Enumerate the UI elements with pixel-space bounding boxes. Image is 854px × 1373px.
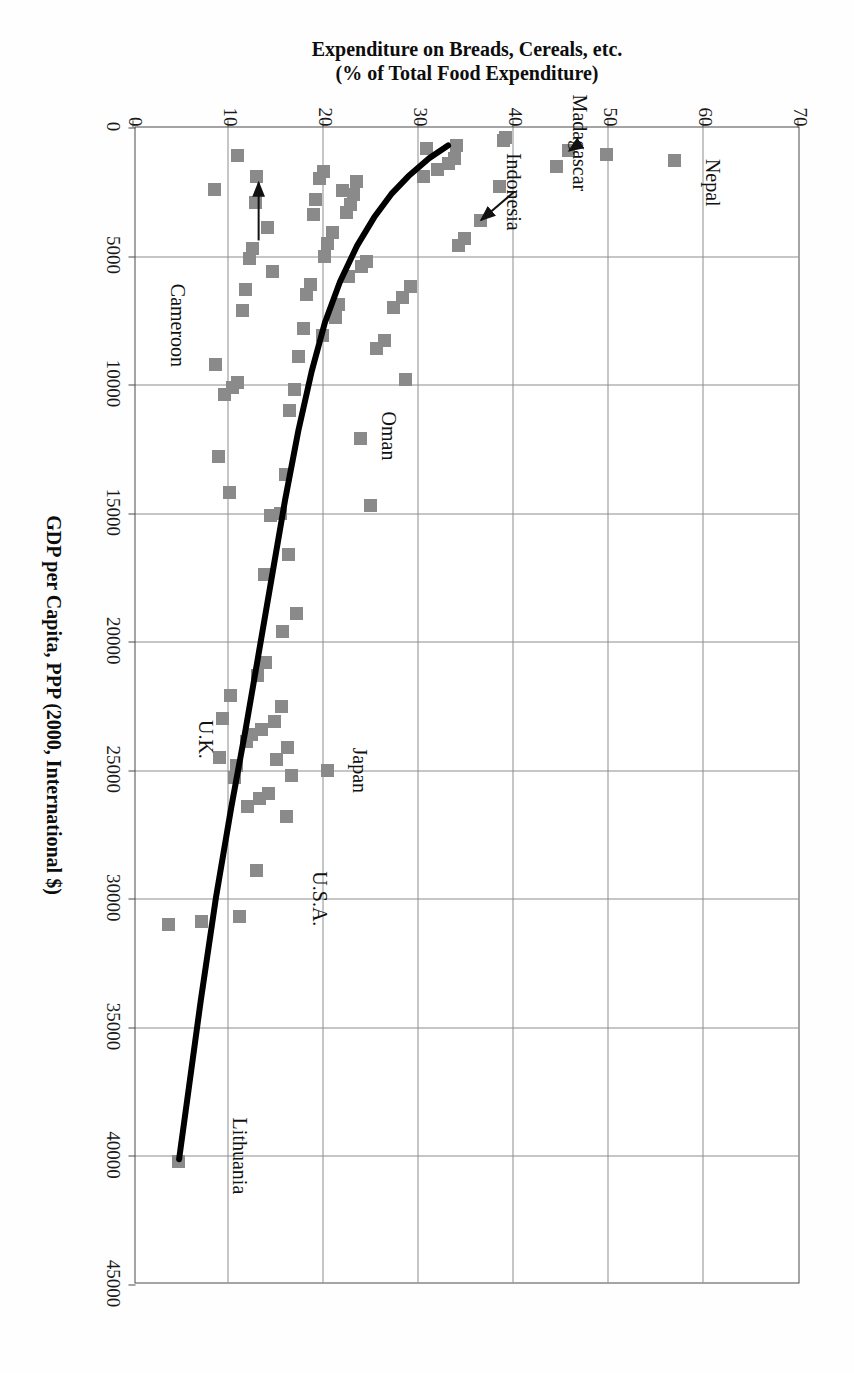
annotation-label-oman: Oman (376, 411, 399, 460)
x-tick-label: 30000 (101, 874, 123, 922)
x-tick-label: 45000 (101, 1259, 123, 1307)
annotation-label-madagascar: Madagascar (568, 94, 591, 191)
x-tick (128, 1155, 135, 1156)
annotation-label-usa: U.S.A. (308, 871, 331, 926)
annotation-label-uk: U.K. (194, 719, 217, 758)
annotation-label-nepal: Nepal (701, 158, 724, 206)
x-tick (128, 1284, 135, 1285)
y-tick-label: 60 (693, 107, 715, 126)
figure-page: NepalMadagascarIndonesiaOmanCameroonJapa… (0, 0, 854, 1373)
y-tick-label: 0 (123, 117, 145, 127)
x-tick (128, 770, 135, 771)
y-axis-title-line1: Expenditure on Breads, Cereals, etc. (134, 36, 799, 60)
y-axis-title: Expenditure on Breads, Cereals, etc. (% … (134, 36, 799, 85)
scatter-chart: NepalMadagascarIndonesiaOmanCameroonJapa… (0, 0, 854, 1373)
x-tick-label: 20000 (101, 616, 123, 664)
x-tick-label: 15000 (101, 488, 123, 536)
annotation-label-cameroon: Cameroon (165, 283, 188, 366)
x-tick-label: 10000 (101, 359, 123, 407)
x-tick (128, 384, 135, 385)
x-tick (128, 641, 135, 642)
annotation-arrows (135, 127, 798, 1282)
annotation-label-lithuania: Lithuania (228, 1117, 251, 1194)
x-tick (128, 256, 135, 257)
x-tick-label: 40000 (101, 1131, 123, 1179)
x-tick-label: 0 (101, 121, 123, 131)
x-tick-label: 35000 (101, 1002, 123, 1050)
x-tick (128, 898, 135, 899)
annotation-label-indonesia: Indonesia (502, 152, 525, 230)
y-tick-label: 30 (408, 107, 430, 126)
x-tick-label: 25000 (101, 745, 123, 793)
annotation-label-japan: Japan (348, 747, 371, 793)
y-tick-label: 20 (313, 107, 335, 126)
x-tick (128, 127, 135, 128)
x-axis-title: GDP per Capita, PPP (2000, International… (41, 126, 64, 1283)
y-tick-label: 50 (598, 107, 620, 126)
rotated-figure-wrapper: NepalMadagascarIndonesiaOmanCameroonJapa… (0, 0, 854, 1373)
y-tick-label: 70 (788, 107, 810, 126)
x-tick (128, 513, 135, 514)
x-tick (128, 1027, 135, 1028)
y-tick-label: 10 (218, 107, 240, 126)
y-axis-title-line2: (% of Total Food Expenditure) (134, 60, 799, 84)
y-tick-label: 40 (503, 107, 525, 126)
plot-area: NepalMadagascarIndonesiaOmanCameroonJapa… (134, 126, 799, 1283)
x-tick-label: 5000 (101, 236, 123, 274)
